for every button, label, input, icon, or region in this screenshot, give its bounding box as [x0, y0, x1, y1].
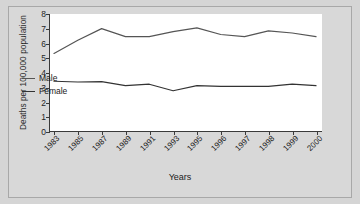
- line-series-female: [54, 81, 316, 91]
- legend-item-male: Male: [22, 72, 67, 84]
- x-tick-label: 1987: [83, 134, 109, 160]
- x-tick-label: 1997: [226, 134, 252, 160]
- legend-item-female: Female: [22, 85, 67, 97]
- legend-swatch-female-icon: [22, 91, 35, 92]
- chart-figure: Deaths per 100,000 population 012345678 …: [0, 0, 360, 204]
- y-tick-mark: [46, 29, 50, 30]
- y-tick-label: 6: [32, 39, 46, 48]
- x-tick-label: 1985: [59, 134, 85, 160]
- y-tick-label: 0: [32, 128, 46, 137]
- x-axis-tick-labels: 1983198519871989199119931995199619971998…: [49, 134, 334, 168]
- x-tick-label: 1993: [155, 134, 181, 160]
- y-tick-label: 5: [32, 54, 46, 63]
- y-tick-mark: [46, 14, 50, 15]
- legend-swatch-male-icon: [22, 78, 35, 79]
- y-tick-label: 7: [32, 25, 46, 34]
- x-tick-label: 1989: [107, 134, 133, 160]
- plot-svg: [50, 14, 322, 131]
- y-tick-label: 2: [32, 98, 46, 107]
- legend-label-male: Male: [39, 74, 57, 83]
- x-tick-label: 1991: [131, 134, 157, 160]
- y-tick-label: 8: [32, 10, 46, 19]
- y-tick-mark: [46, 44, 50, 45]
- y-tick-mark: [46, 117, 50, 118]
- x-tick-label: 2000: [298, 134, 324, 160]
- y-tick-label: 1: [32, 113, 46, 122]
- y-tick-mark: [46, 132, 50, 133]
- plot-area: [49, 14, 322, 132]
- x-tick-label: 1998: [250, 134, 276, 160]
- chart-legend: Male Female: [22, 72, 67, 98]
- x-axis-title: Years: [0, 172, 360, 182]
- y-tick-mark: [46, 103, 50, 104]
- y-tick-mark: [46, 58, 50, 59]
- x-tick-label: 1995: [179, 134, 205, 160]
- x-tick-label: 1996: [203, 134, 229, 160]
- legend-label-female: Female: [39, 87, 67, 96]
- line-series-male: [54, 28, 316, 54]
- x-tick-label: 1999: [274, 134, 300, 160]
